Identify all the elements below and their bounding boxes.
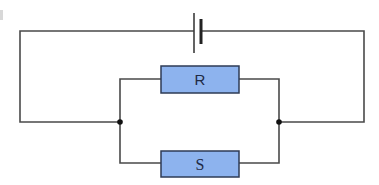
right-branch-wire xyxy=(239,79,279,163)
edge-mark xyxy=(0,10,3,20)
resistor-r: R xyxy=(161,66,239,93)
resistor-s-label: S xyxy=(196,156,205,173)
battery-icon xyxy=(194,13,201,53)
junction-right xyxy=(276,119,282,125)
resistor-s: S xyxy=(161,151,239,177)
junction-left xyxy=(117,119,123,125)
circuit-svg: R S xyxy=(0,0,379,185)
left-branch-wire xyxy=(120,79,161,163)
circuit-diagram: R S xyxy=(0,0,379,185)
resistor-r-label: R xyxy=(195,71,206,88)
